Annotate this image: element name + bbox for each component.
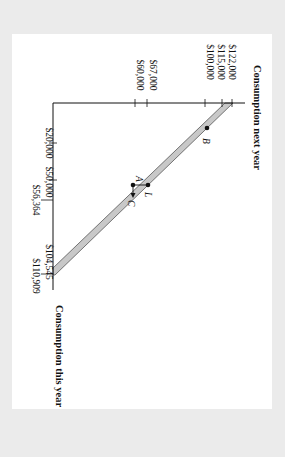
point-l bbox=[146, 183, 151, 188]
x-tick-104545: $104,545 bbox=[44, 244, 54, 280]
y-tick-115000: $115,000 bbox=[216, 44, 226, 80]
point-label-c: C bbox=[126, 200, 136, 207]
y-tick-100000: $100,000 bbox=[205, 44, 215, 80]
point-label-a: A bbox=[134, 175, 144, 182]
x-axis-title: Consumption this year bbox=[54, 305, 65, 407]
point-label-b: B bbox=[201, 138, 211, 144]
y-tick-67000: $67,000 bbox=[148, 60, 158, 91]
x-tick-20000: $20,000 bbox=[44, 128, 54, 159]
y-tick-122000: $122,000 bbox=[227, 44, 237, 80]
y-tick-60000: $60,000 bbox=[135, 60, 145, 91]
x-tick-110909: $110,909 bbox=[31, 258, 41, 294]
point-label-l: L bbox=[143, 191, 153, 197]
point-a bbox=[131, 183, 136, 188]
point-b bbox=[205, 126, 210, 131]
x-tick-50000: $50,000 bbox=[44, 167, 54, 198]
x-tick-56364: $56,364 bbox=[31, 185, 41, 216]
y-axis-title: Consumption next year bbox=[252, 65, 263, 170]
chart-svg: $122,000 $115,000 $100,000 $67,000 $60,0… bbox=[0, 0, 285, 457]
